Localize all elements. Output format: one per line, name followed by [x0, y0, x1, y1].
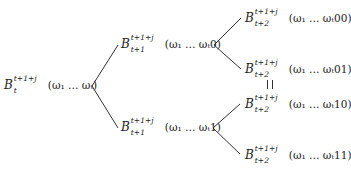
node-10: Bt+1+jt+2(ω₁ … ωₜ10)	[245, 96, 351, 114]
node-1: Bt+1+jt+1(ω₁ … ωₜ1)	[121, 119, 221, 137]
node-11-arg: (ω₁ … ωₜ11)	[289, 149, 351, 161]
node-00: Bt+1+jt+2(ω₁ … ωₜ00)	[245, 10, 351, 28]
node-10-sup: t+1+j	[255, 94, 278, 102]
node-10-arg: (ω₁ … ωₜ10)	[289, 98, 351, 110]
node-11-sub: t+2	[255, 157, 269, 165]
node-0-sub: t+1	[131, 46, 145, 54]
equality-marker	[267, 80, 273, 89]
node-0-arg: (ω₁ … ωₜ0)	[165, 38, 221, 50]
node-1-symbol: B	[121, 120, 130, 134]
node-00-arg: (ω₁ … ωₜ00)	[289, 12, 351, 24]
node-1-arg: (ω₁ … ωₜ1)	[165, 121, 221, 133]
node-00-sup: t+1+j	[255, 8, 278, 16]
node-root: Bt+1+jt(ω₁ … ωₜ)	[4, 77, 97, 95]
node-0-symbol: B	[121, 37, 130, 51]
node-1-sup: t+1+j	[131, 117, 154, 125]
node-0-sup: t+1+j	[131, 34, 154, 42]
node-root-symbol: B	[4, 78, 13, 92]
node-01: Bt+1+jt+2(ω₁ … ωₜ01)	[245, 61, 351, 79]
node-11-symbol: B	[245, 148, 254, 162]
node-10-symbol: B	[245, 97, 254, 111]
node-1-sub: t+1	[131, 129, 145, 137]
node-root-arg: (ω₁ … ωₜ)	[48, 79, 97, 91]
node-01-symbol: B	[245, 62, 254, 76]
node-01-sup: t+1+j	[255, 59, 278, 67]
node-01-sub: t+2	[255, 71, 269, 79]
node-01-arg: (ω₁ … ωₜ01)	[289, 63, 351, 75]
node-10-sub: t+2	[255, 106, 269, 114]
node-00-sub: t+2	[255, 20, 269, 28]
node-11: Bt+1+jt+2(ω₁ … ωₜ11)	[245, 147, 351, 165]
node-11-sup: t+1+j	[255, 145, 278, 153]
node-root-sup: t+1+j	[14, 75, 37, 83]
node-00-symbol: B	[245, 11, 254, 25]
node-root-sub: t	[14, 87, 17, 95]
node-0: Bt+1+jt+1(ω₁ … ωₜ0)	[121, 36, 221, 54]
